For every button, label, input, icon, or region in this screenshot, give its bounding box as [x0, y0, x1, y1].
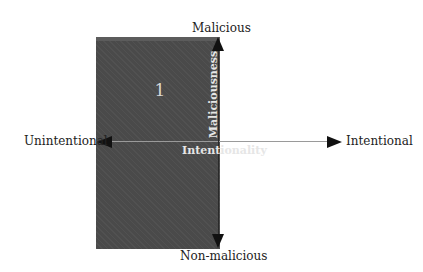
unintentional-label: Unintentional [24, 134, 108, 148]
arrow-right-icon [327, 136, 342, 148]
quadrant-top-edge [96, 37, 220, 41]
arrow-down-icon [212, 234, 224, 248]
quadrant-1-region [96, 37, 220, 249]
intentionality-axis-title: Intentionality [182, 144, 267, 157]
intentional-label: Intentional [346, 134, 413, 148]
quadrant-number: 1 [154, 80, 166, 100]
horizontal-axis-line [100, 141, 330, 142]
maliciousness-axis-title: Maliciousness [207, 50, 220, 140]
malicious-label: Malicious [192, 21, 251, 35]
non-malicious-label: Non-malicious [180, 249, 267, 263]
